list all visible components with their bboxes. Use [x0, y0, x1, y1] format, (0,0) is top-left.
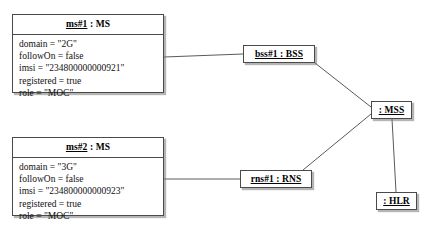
object-node-ms2[interactable]: ms#2 : MS domain = "3G" followOn = false…	[12, 137, 164, 216]
object-node-ms1-attributes: domain = "2G" followOn = false imsi = "2…	[13, 35, 163, 101]
attribute-row: role = "MOC"	[19, 87, 163, 99]
attribute-row: imsi = "234800000000923"	[19, 185, 163, 197]
object-node-ms1[interactable]: ms#1 : MS domain = "2G" followOn = false…	[12, 14, 164, 93]
object-node-ms2-header: ms#2 : MS	[13, 138, 163, 158]
connector-ms1-bss1	[164, 54, 243, 57]
object-node-bss1[interactable]: bss#1 : BSS	[243, 45, 315, 63]
object-node-ms2-attributes: domain = "3G" followOn = false imsi = "2…	[13, 158, 163, 224]
attribute-row: role = "MOC"	[19, 210, 163, 222]
object-node-mss-label: : MSS	[376, 105, 408, 115]
object-node-rns1-label: rns#1 : RNS	[248, 174, 305, 184]
connector-mss-rns1	[303, 114, 371, 170]
object-node-ms1-separator: :	[87, 19, 95, 29]
object-node-ms1-header: ms#1 : MS	[13, 15, 163, 35]
attribute-row: domain = "2G"	[19, 38, 163, 50]
attribute-row: domain = "3G"	[19, 161, 163, 173]
object-node-ms2-classifier: MS	[96, 142, 110, 152]
attribute-row: imsi = "234800000000921"	[19, 62, 163, 74]
object-node-hlr-label: : HLR	[380, 196, 413, 206]
uml-object-diagram-canvas: ms#1 : MS domain = "2G" followOn = false…	[0, 0, 427, 234]
object-node-ms1-classifier: MS	[96, 19, 110, 29]
connector-mss-hlr	[392, 119, 396, 192]
attribute-row: followOn = false	[19, 50, 163, 62]
attribute-row: registered = true	[19, 75, 163, 87]
object-node-ms2-separator: :	[87, 142, 95, 152]
connector-bss1-mss	[315, 63, 371, 107]
attribute-row: registered = true	[19, 198, 163, 210]
object-node-ms2-instance-name: ms#2	[66, 142, 88, 152]
object-node-hlr[interactable]: : HLR	[376, 192, 417, 210]
object-node-ms1-instance-name: ms#1	[66, 19, 88, 29]
object-node-bss1-label: bss#1 : BSS	[252, 49, 306, 59]
object-node-mss[interactable]: : MSS	[371, 101, 412, 119]
object-node-rns1[interactable]: rns#1 : RNS	[240, 170, 312, 188]
attribute-row: followOn = false	[19, 173, 163, 185]
